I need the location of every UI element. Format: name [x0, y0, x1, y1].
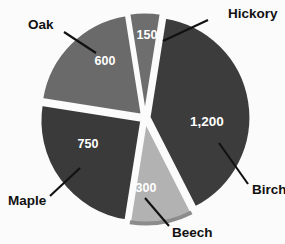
category-label-hickory: Hickory [228, 6, 278, 21]
category-label-maple: Maple [8, 193, 47, 208]
pie-chart: 1501,200300750600 HickoryBirchBeechMaple… [0, 0, 285, 244]
category-label-beech: Beech [172, 225, 213, 240]
pie-slice-oak[interactable] [42, 15, 142, 115]
slice-value-maple: 750 [78, 137, 99, 151]
category-label-birch: Birch [252, 182, 285, 197]
pie-slice-maple[interactable] [40, 105, 141, 221]
slice-value-oak: 600 [95, 54, 116, 68]
slice-value-birch: 1,200 [190, 114, 224, 129]
pie-chart-svg: 1501,200300750600 HickoryBirchBeechMaple… [0, 0, 285, 244]
category-label-oak: Oak [28, 17, 54, 32]
slice-value-beech: 300 [136, 181, 157, 195]
slice-value-hickory: 150 [137, 28, 158, 42]
